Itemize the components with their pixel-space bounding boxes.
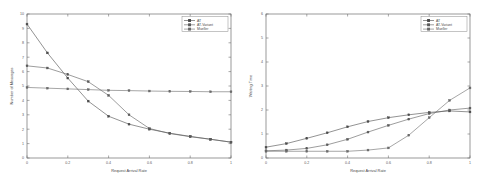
left-xtick-label: 0.4	[106, 161, 111, 165]
left-marker	[87, 89, 89, 91]
left-ytick-label: 9	[22, 27, 24, 31]
right-ytick-label: 6	[261, 12, 263, 16]
left-ytick-label: 5	[22, 84, 24, 88]
left-marker	[26, 23, 28, 25]
right-marker	[469, 87, 471, 89]
right-series-at	[265, 110, 471, 148]
left-plot-frame	[27, 14, 231, 158]
right-legend: ATAT-VariantMueller	[421, 17, 467, 32]
left-marker	[67, 88, 69, 90]
left-yaxis-title: Number of Messages	[9, 67, 14, 104]
left-marker	[26, 86, 28, 88]
right-xtick-label: 0	[265, 161, 267, 165]
right-xtick-label: 0.2	[304, 161, 309, 165]
right-ytick-label: 0	[261, 156, 263, 160]
right-ytick-label: 4	[261, 60, 263, 64]
left-marker	[148, 90, 150, 92]
right-series-at-variant	[265, 107, 471, 152]
chart-panel-left: 00.20.40.60.81012345678910Request Arriva…	[0, 0, 239, 182]
left-marker	[26, 65, 28, 67]
right-marker	[265, 146, 267, 148]
left-legend: ATAT-VariantMueller	[182, 17, 228, 32]
right-marker	[469, 107, 471, 109]
left-xtick-label: 0.6	[147, 161, 152, 165]
left-marker	[87, 81, 89, 83]
left-ytick-label: 8	[22, 41, 24, 45]
left-marker	[169, 133, 171, 135]
right-marker	[306, 137, 308, 139]
left-marker	[210, 91, 212, 93]
right-marker	[347, 150, 349, 152]
chart-panel-right: 00.20.40.60.810123456Request Arrival Rat…	[239, 0, 478, 182]
left-marker	[67, 74, 69, 76]
left-marker	[87, 100, 89, 102]
right-marker	[285, 143, 287, 145]
right-ytick-label: 1	[261, 132, 263, 136]
left-ytick-label: 1	[22, 142, 24, 146]
right-marker	[285, 150, 287, 152]
right-marker	[347, 138, 349, 140]
left-marker	[189, 136, 191, 138]
right-xaxis-title: Request Arrival Rate	[350, 168, 386, 173]
right-line-at-variant	[266, 108, 470, 151]
right-yaxis-title: Waiting Time	[248, 75, 253, 97]
right-legend-marker	[428, 24, 430, 26]
left-legend-marker	[189, 24, 191, 26]
left-marker	[108, 115, 110, 117]
chart-left-svg: 00.20.40.60.81012345678910Request Arriva…	[0, 0, 239, 182]
left-line-at-variant	[27, 66, 231, 142]
right-plot-frame	[266, 14, 470, 158]
right-ytick-label: 5	[261, 36, 263, 40]
left-ytick-label: 3	[22, 113, 24, 117]
right-marker	[367, 131, 369, 133]
left-marker	[128, 123, 130, 125]
left-series-at-variant	[26, 65, 232, 143]
right-marker	[326, 132, 328, 134]
left-marker	[46, 67, 48, 69]
right-marker	[428, 113, 430, 115]
right-line-at	[266, 111, 470, 147]
right-legend-marker	[428, 20, 430, 22]
left-ytick-label: 7	[22, 56, 24, 60]
left-marker	[148, 128, 150, 130]
left-marker	[128, 114, 130, 116]
right-marker	[449, 109, 451, 111]
left-marker	[210, 138, 212, 140]
left-ytick-label: 10	[20, 12, 24, 16]
figure-container: 00.20.40.60.81012345678910Request Arriva…	[0, 0, 479, 182]
right-marker	[408, 114, 410, 116]
left-xtick-label: 0.2	[65, 161, 70, 165]
right-marker	[387, 124, 389, 126]
right-marker	[387, 147, 389, 149]
right-marker	[347, 126, 349, 128]
right-marker	[326, 144, 328, 146]
left-marker	[230, 141, 232, 143]
right-line-mueller	[266, 88, 470, 151]
left-marker	[189, 91, 191, 93]
left-ytick-label: 4	[22, 99, 24, 103]
right-xtick-label: 0.4	[345, 161, 350, 165]
chart-right-svg: 00.20.40.60.810123456Request Arrival Rat…	[239, 0, 478, 182]
right-legend-label: Mueller	[436, 27, 448, 31]
left-marker	[46, 87, 48, 89]
right-ytick-label: 2	[261, 108, 263, 112]
right-marker	[306, 147, 308, 149]
left-ytick-label: 0	[22, 156, 24, 160]
right-marker	[469, 111, 471, 113]
left-marker	[108, 89, 110, 91]
left-series-at	[26, 23, 232, 143]
left-xtick-label: 0.8	[188, 161, 193, 165]
left-ytick-label: 2	[22, 128, 24, 132]
right-marker	[367, 121, 369, 123]
left-legend-label: Mueller	[197, 27, 209, 31]
right-marker	[408, 134, 410, 136]
right-marker	[265, 150, 267, 152]
right-legend-marker	[428, 28, 430, 30]
left-marker	[128, 90, 130, 92]
right-marker	[326, 150, 328, 152]
right-marker	[408, 118, 410, 120]
left-marker	[67, 77, 69, 79]
right-xtick-label: 0.8	[427, 161, 432, 165]
right-marker	[428, 117, 430, 119]
left-legend-marker	[189, 20, 191, 22]
